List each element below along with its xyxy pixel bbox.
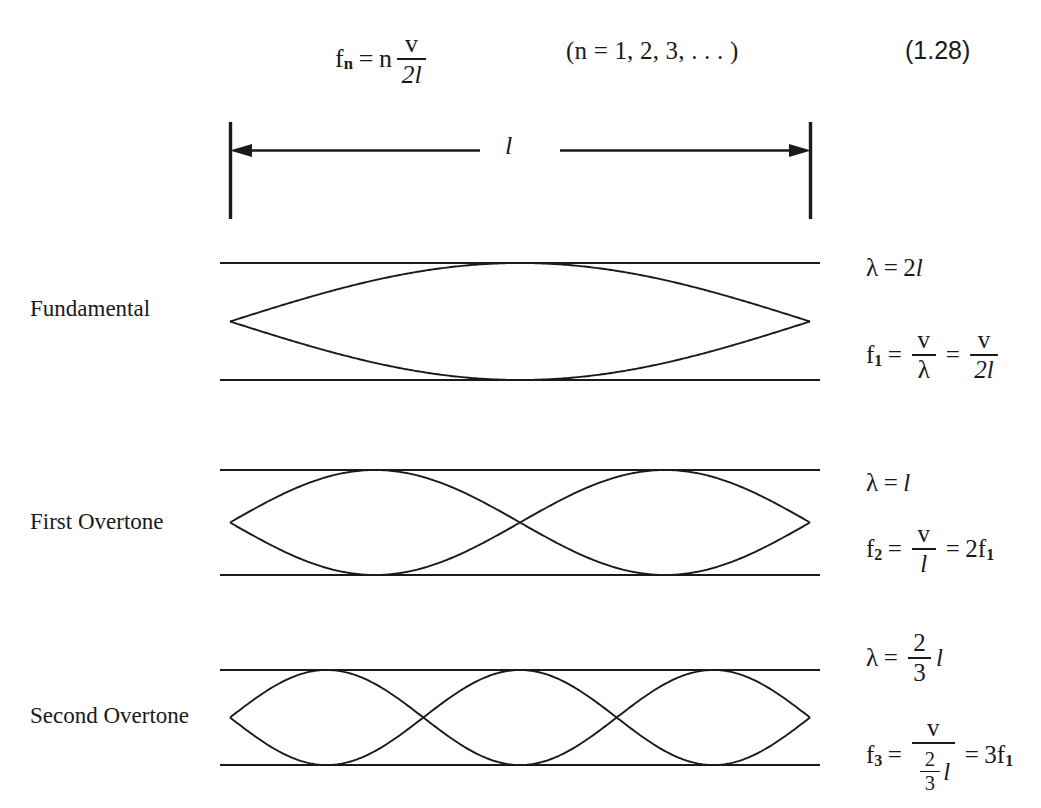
equals-sign: = — [884, 255, 898, 280]
equals-sign-2: = — [946, 342, 960, 367]
numerator: v — [913, 521, 935, 548]
frequency-symbol: f — [866, 742, 874, 767]
frequency-fraction-2: v 2l — [970, 327, 998, 383]
row-label-first-overtone: First Overtone — [30, 509, 164, 535]
equation-f-symbol: f — [335, 46, 344, 72]
inner-numerator: 2 — [921, 749, 939, 771]
result-symbol: f — [978, 536, 986, 561]
wave-envelope-lower-row-3 — [230, 670, 810, 765]
wavelength-equation-first-overtone: λ = l — [866, 470, 910, 495]
numerator: v — [973, 327, 995, 354]
equals-sign: = — [888, 742, 902, 767]
numerator: 2 — [909, 630, 931, 657]
numerator: v — [923, 715, 945, 742]
denominator: l — [916, 550, 932, 577]
result-coefficient: 2 — [965, 536, 978, 561]
standing-waves-drawing — [0, 0, 1041, 808]
dimension-label-text: l — [505, 133, 512, 159]
row-label-fundamental: Fundamental — [30, 296, 150, 322]
equation-multiplier: n — [379, 46, 392, 72]
wave-envelope-lower-row-2 — [230, 470, 810, 575]
frequency-fraction-1: v l — [912, 521, 936, 577]
main-equation: fn = n v 2l — [335, 30, 431, 88]
result-subscript: 1 — [986, 547, 994, 563]
equals-sign: = — [884, 470, 898, 495]
wavelength-unit: l — [916, 255, 923, 280]
equation-number: (1.28) — [905, 36, 970, 65]
wavelength-equation-fundamental: λ = 2l — [866, 255, 923, 280]
result-symbol: f — [997, 742, 1005, 767]
wave-envelope-upper-row-2 — [230, 470, 810, 575]
equation-fraction-numerator: v — [400, 30, 422, 58]
frequency-equation-first-overtone: f2 = v l = 2f1 — [866, 521, 994, 577]
wavelength-coefficient: 2 — [903, 255, 916, 280]
wavelength-unit: l — [903, 470, 910, 495]
lambda-symbol: λ — [866, 255, 878, 280]
left-arrowhead-icon — [230, 144, 252, 157]
wavelength-fraction: 2 3 — [908, 630, 932, 686]
equals-sign-2: = — [946, 536, 960, 561]
wavelength-equation-second-overtone: λ = 2 3 l — [866, 630, 943, 686]
wavelength-unit: l — [936, 645, 943, 670]
equation-equals: = — [359, 46, 374, 72]
result-coefficient: 3 — [984, 742, 997, 767]
wave-envelope-lower-row-1 — [230, 322, 810, 381]
frequency-nested-fraction: v 2 3 l — [912, 715, 955, 795]
wave-envelope-upper-row-3 — [230, 670, 810, 765]
row-label-second-overtone: Second Overtone — [30, 703, 189, 729]
equation-range-note: (n = 1, 2, 3, . . . ) — [566, 38, 738, 63]
equals-sign: = — [888, 536, 902, 561]
denominator: λ — [913, 356, 934, 383]
lambda-symbol: λ — [866, 645, 878, 670]
denominator: 3 — [909, 659, 931, 686]
equals-sign: = — [884, 645, 898, 670]
numerator: v — [913, 327, 935, 354]
denominator: 2 3 l — [912, 744, 955, 795]
frequency-equation-second-overtone: f3 = v 2 3 l = 3f1 — [866, 715, 1013, 795]
frequency-equation-fundamental: f1 = v λ = v 2l — [866, 327, 1003, 383]
right-arrowhead-icon — [789, 144, 811, 157]
frequency-symbol: f — [866, 536, 874, 561]
equals-sign-2: = — [965, 742, 979, 767]
frequency-fraction-1: v λ — [912, 327, 936, 383]
equals-sign: = — [888, 342, 902, 367]
equation-fraction: v 2l — [397, 30, 427, 88]
dimension-label: l — [505, 133, 512, 159]
equation-f-subscript: n — [344, 56, 353, 73]
inner-unit: l — [943, 759, 950, 784]
result-subscript: 1 — [1005, 753, 1013, 769]
lambda-symbol: λ — [866, 470, 878, 495]
frequency-subscript: 2 — [874, 547, 882, 563]
dimension-line-drawing — [0, 0, 1041, 808]
equation-fraction-denominator: 2l — [397, 60, 427, 88]
frequency-subscript: 1 — [874, 353, 882, 369]
standing-wave-figure: fn = n v 2l (n = 1, 2, 3, . . . ) (1.28)… — [0, 0, 1041, 808]
inner-denominator: 3 — [921, 772, 939, 794]
inner-fraction: 2 3 — [920, 749, 939, 795]
wave-envelope-upper-row-1 — [230, 263, 810, 322]
frequency-subscript: 3 — [874, 753, 882, 769]
denominator: 2l — [970, 356, 998, 383]
frequency-symbol: f — [866, 342, 874, 367]
